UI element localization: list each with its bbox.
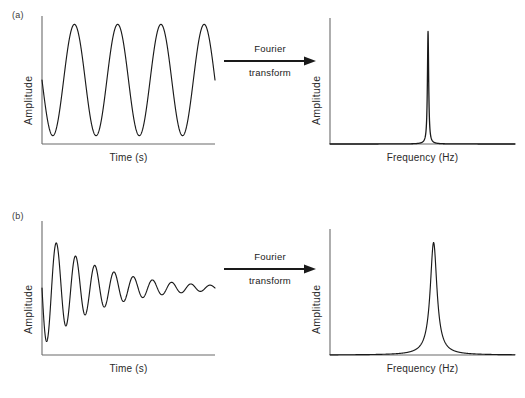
panel-b-frequency-domain-axes <box>330 229 515 355</box>
panel-a-frequency-domain-axes <box>330 18 515 144</box>
fourier-transform-figure: (a) Amplitude Time (s) Fourier transform… <box>0 0 525 398</box>
panel-b-freq-plot <box>0 199 525 398</box>
panel-a: (a) Amplitude Time (s) Fourier transform… <box>0 0 525 199</box>
panel-a-freq-plot <box>0 0 525 199</box>
panel-a-frequency-domain-trace <box>330 32 515 144</box>
panel-b-frequency-domain-trace <box>330 243 515 355</box>
panel-b: (b) Amplitude Time (s) Fourier transform… <box>0 199 525 398</box>
